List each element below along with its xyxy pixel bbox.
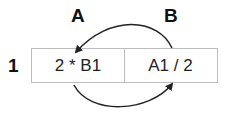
- arrow-b1-to-a1: [76, 25, 172, 53]
- arrow-a1-to-b1: [74, 84, 172, 107]
- reference-arrows: [0, 0, 228, 114]
